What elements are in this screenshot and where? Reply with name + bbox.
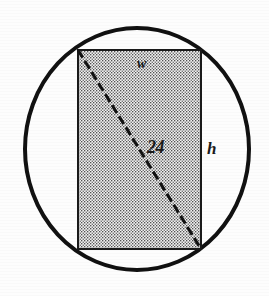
diagram-canvas	[0, 0, 269, 296]
height-label: h	[207, 140, 216, 157]
diagonal-length-label: 24	[147, 138, 164, 156]
width-label: w	[137, 57, 147, 71]
geometry-figure: w 24 h	[0, 0, 269, 296]
